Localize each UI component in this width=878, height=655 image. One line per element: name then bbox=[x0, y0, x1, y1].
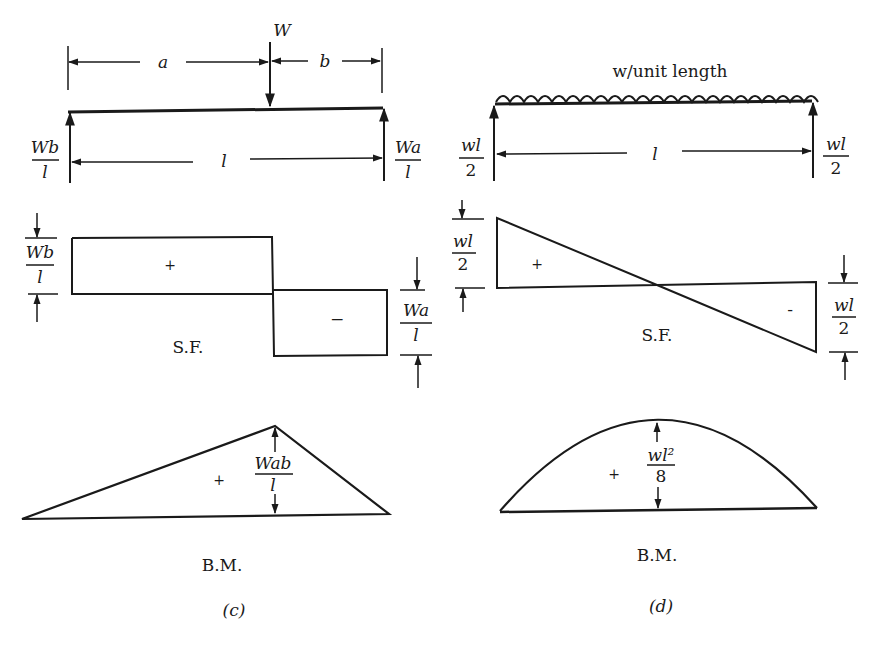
shear-force-diagram-c: + − S.F. Wb l Wa l bbox=[25, 213, 432, 388]
sf-title: S.F. bbox=[642, 325, 673, 345]
beam bbox=[68, 108, 383, 112]
dim-a-label: a bbox=[158, 52, 168, 72]
fraction-numerator: Wb bbox=[31, 137, 59, 157]
fraction-denominator: 2 bbox=[839, 318, 850, 338]
bending-moment-diagram-c: + Wab l B.M. bbox=[22, 426, 389, 575]
right-reaction-label: Wa l bbox=[395, 137, 421, 182]
fraction-denominator: 2 bbox=[831, 158, 842, 178]
sf-positive-triangle bbox=[497, 218, 657, 288]
sf-title: S.F. bbox=[173, 337, 204, 357]
fraction-denominator: 2 bbox=[466, 160, 477, 180]
left-reaction-label: Wb l bbox=[31, 137, 59, 182]
fraction-numerator: Wa bbox=[395, 137, 421, 157]
bm-max-value: wl² 8 bbox=[647, 445, 675, 486]
beam-udl: w/unit length l wl 2 wl 2 bbox=[459, 61, 849, 181]
fraction-numerator: wl bbox=[826, 134, 846, 154]
span-arrow-left bbox=[497, 153, 627, 154]
bm-sign: + bbox=[213, 472, 225, 488]
sf-negative-sign: − bbox=[330, 309, 344, 329]
fraction-numerator: Wb bbox=[26, 242, 54, 262]
sf-negative-sign: - bbox=[787, 299, 793, 319]
sf-right-value: wl 2 bbox=[832, 295, 856, 338]
span-arrow-right bbox=[250, 158, 382, 159]
beam-diagrams-figure: a b W l Wb l Wa bbox=[0, 0, 878, 655]
span-label: l bbox=[221, 151, 226, 171]
bm-baseline bbox=[500, 508, 817, 512]
fraction-denominator: l bbox=[270, 475, 275, 495]
fraction-numerator: wl bbox=[453, 231, 473, 251]
sf-positive-sign: + bbox=[164, 257, 176, 273]
shear-force-diagram-d: + - S.F. wl 2 wl 2 bbox=[452, 200, 858, 380]
fraction-denominator: 2 bbox=[458, 254, 469, 274]
panel-d-caption: (d) bbox=[649, 596, 673, 616]
bm-sign: + bbox=[608, 466, 620, 482]
fraction-numerator: Wa bbox=[403, 300, 429, 320]
fraction-numerator: Wab bbox=[254, 453, 291, 473]
sf-left-value: Wb l bbox=[26, 242, 54, 287]
load-w-label: W bbox=[273, 20, 292, 40]
sf-positive-sign: + bbox=[531, 256, 543, 272]
right-reaction-label: wl 2 bbox=[823, 134, 849, 178]
beam bbox=[495, 101, 812, 104]
bm-title: B.M. bbox=[637, 545, 678, 565]
fraction-denominator: l bbox=[42, 162, 47, 182]
sf-right-value: Wa l bbox=[400, 300, 432, 345]
panel-c: a b W l Wb l Wa bbox=[22, 20, 432, 620]
udl-label: w/unit length bbox=[613, 61, 728, 81]
fraction-denominator: l bbox=[413, 325, 418, 345]
beam-point-load: a b W l Wb l Wa bbox=[31, 20, 421, 183]
bm-title: B.M. bbox=[202, 555, 243, 575]
bm-triangle bbox=[22, 426, 389, 519]
fraction-numerator: wl² bbox=[648, 445, 675, 465]
sf-left-value: wl 2 bbox=[452, 231, 476, 274]
fraction-denominator: l bbox=[405, 162, 410, 182]
span-label: l bbox=[652, 144, 657, 164]
left-reaction-label: wl 2 bbox=[459, 135, 484, 180]
fraction-numerator: wl bbox=[834, 295, 854, 315]
panel-c-caption: (c) bbox=[223, 600, 246, 620]
bm-max-value: Wab l bbox=[254, 453, 293, 495]
fraction-numerator: wl bbox=[461, 135, 481, 155]
bending-moment-diagram-d: + wl² 8 B.M. bbox=[500, 420, 817, 565]
panel-d: w/unit length l wl 2 wl 2 + - bbox=[452, 61, 858, 616]
fraction-denominator: l bbox=[37, 267, 42, 287]
dim-b-label: b bbox=[320, 51, 331, 71]
fraction-denominator: 8 bbox=[656, 466, 667, 486]
